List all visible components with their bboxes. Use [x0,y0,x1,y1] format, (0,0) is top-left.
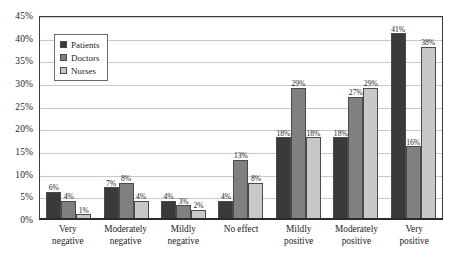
x-axis-label-line: positive [270,235,328,247]
legend-swatch-icon [60,41,67,48]
legend-swatch-icon [60,54,67,61]
x-axis-labels: VerynegativeModeratelynegativeMildlynega… [39,223,443,247]
x-axis-label-line: Very [385,223,443,235]
x-axis-category-label: Moderatelynegative [97,223,155,247]
y-axis-tick: 5% [20,192,33,202]
legend: PatientsDoctorsNurses [54,34,108,81]
bar-value-label: 27% [349,89,363,98]
bar-value-label: 4% [136,193,146,202]
bar-value-label: 38% [421,39,435,48]
bar-value-label: 29% [291,80,305,89]
bar[interactable]: 13% [233,160,248,219]
x-axis-category-label: Verypositive [385,223,443,247]
y-axis-tick: 45% [15,11,33,21]
bar-slot: 8% [248,17,263,219]
bar-value-label: 3% [178,198,188,207]
bar[interactable]: 29% [363,88,378,219]
x-axis-label-line: Very [39,223,97,235]
x-axis-baseline [39,218,443,220]
bar[interactable]: 4% [61,201,76,219]
legend-item-label: Doctors [71,53,100,63]
bar-value-label: 4% [64,193,74,202]
bar-value-label: 1% [79,207,89,216]
x-axis-category-label: No effect [212,223,270,247]
bar-group: 18%29%18% [270,17,327,219]
bar-slot: 18% [276,17,291,219]
legend-item[interactable]: Nurses [60,64,100,77]
bar[interactable]: 3% [176,205,191,219]
y-axis-tick: 15% [15,147,33,157]
bar-slot: 41% [391,17,406,219]
bar[interactable]: 7% [104,187,119,219]
bar[interactable]: 41% [391,33,406,219]
bar-value-label: 6% [49,184,59,193]
y-axis-tick: 35% [15,56,33,66]
x-axis-label-line: Moderately [328,223,386,235]
x-axis-category-label: Mildlypositive [270,223,328,247]
bar[interactable]: 8% [248,183,263,219]
x-axis-category-label: Mildlynegative [154,223,212,247]
bar-value-label: 18% [306,130,320,139]
bar-value-label: 8% [251,175,261,184]
legend-item-label: Nurses [71,66,96,76]
bar[interactable]: 18% [333,137,348,219]
bar-slot: 2% [191,17,206,219]
x-axis-category-label: Verynegative [39,223,97,247]
bar-value-label: 4% [163,193,173,202]
bar-slot: 4% [134,17,149,219]
bar-value-label: 2% [193,202,203,211]
legend-item-label: Patients [71,40,100,50]
y-axis-tick: 30% [15,79,33,89]
x-axis-category-label: Moderatelypositive [328,223,386,247]
bar-group: 4%13%8% [212,17,269,219]
bar-slot: 13% [233,17,248,219]
bar-value-label: 8% [121,175,131,184]
bar-value-label: 16% [406,139,420,148]
x-axis-label-line: Mildly [270,223,328,235]
bar-slot: 16% [406,17,421,219]
bar[interactable]: 38% [421,47,436,219]
bar-group: 18%27%29% [327,17,384,219]
bar-value-label: 4% [221,193,231,202]
bar-slot: 8% [119,17,134,219]
bar[interactable]: 8% [119,183,134,219]
x-axis-label-line: positive [328,235,386,247]
legend-item[interactable]: Doctors [60,51,100,64]
x-axis-label-line: positive [385,235,443,247]
bar[interactable]: 4% [218,201,233,219]
y-axis-tick: 25% [15,102,33,112]
bar[interactable]: 4% [134,201,149,219]
bar[interactable]: 18% [306,137,321,219]
bar-value-label: 18% [276,130,290,139]
bar-slot: 18% [306,17,321,219]
x-axis-label-line: negative [154,235,212,247]
bar[interactable]: 6% [46,192,61,219]
bar-value-label: 29% [364,80,378,89]
bar-value-label: 41% [391,26,405,35]
bar[interactable]: 29% [291,88,306,219]
legend-item[interactable]: Patients [60,38,100,51]
bar-slot: 29% [291,17,306,219]
y-axis-tick: 20% [15,124,33,134]
x-axis-label-line: No effect [212,223,270,235]
bar-value-label: 13% [234,152,248,161]
y-axis: 45%40%35%30%25%20%15%10%5%0% [0,16,36,220]
bar[interactable]: 4% [161,201,176,219]
bar-slot: 4% [218,17,233,219]
bar[interactable]: 18% [276,137,291,219]
x-axis-label-line: Mildly [154,223,212,235]
x-axis-label-line: Moderately [97,223,155,235]
x-axis-label-line: negative [39,235,97,247]
legend-swatch-icon [60,67,67,74]
bar-slot: 18% [333,17,348,219]
bar-group: 41%16%38% [385,17,442,219]
bar[interactable]: 16% [406,146,421,219]
bar-slot: 3% [176,17,191,219]
bar[interactable]: 27% [348,97,363,219]
bar-group: 4%3%2% [155,17,212,219]
bar-value-label: 18% [334,130,348,139]
y-axis-tick: 10% [15,170,33,180]
y-axis-tick: 40% [15,34,33,44]
bar-slot: 38% [421,17,436,219]
bar-chart: 45%40%35%30%25%20%15%10%5%0% 6%4%1%7%8%4… [0,0,453,269]
